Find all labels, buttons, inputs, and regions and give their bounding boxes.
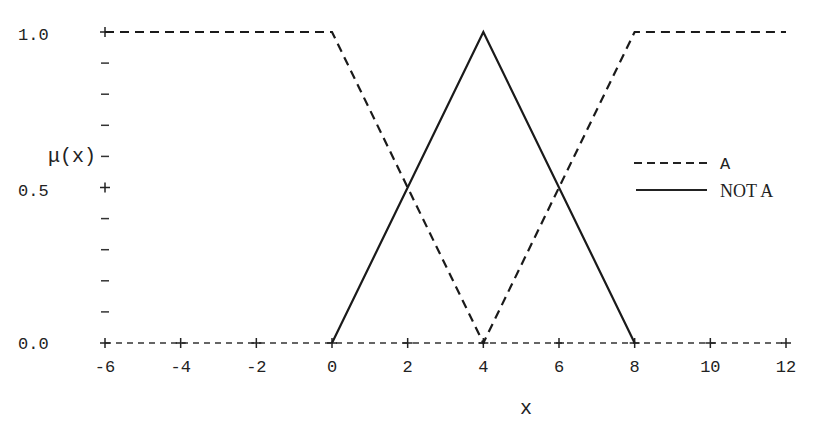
legend: A NOT A [634,155,773,201]
membership-chart: -6-4-2024681012 μ(x) x 1.0 0.5 0.0 A NOT… [0,0,819,432]
x-tick-label: 8 [630,358,640,377]
x-tick-label: 2 [403,358,413,377]
x-tick-label: -6 [95,358,115,377]
x-tick-label: 10 [700,358,720,377]
series-not-a [332,32,635,343]
x-tick-label: -2 [246,358,266,377]
x-tick-label: -4 [170,358,190,377]
axes: -6-4-2024681012 [95,27,796,377]
series-a [105,32,786,343]
y-tick-1: 1.0 [18,26,49,45]
y-tick-05: 0.5 [18,182,49,201]
legend-label-not-a: NOT A [720,181,773,201]
x-tick-label: 4 [478,358,488,377]
x-tick-label: 6 [554,358,564,377]
x-tick-label: 0 [327,358,337,377]
x-axis-label: x [520,397,532,420]
y-tick-0: 0.0 [18,335,49,354]
legend-label-a: A [720,155,731,174]
plot-series [105,32,786,343]
y-axis-label: μ(x) [48,145,96,168]
x-tick-label: 12 [776,358,796,377]
